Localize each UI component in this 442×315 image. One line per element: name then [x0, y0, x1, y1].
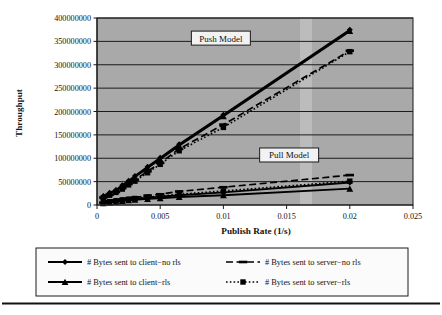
legend-box [36, 248, 408, 296]
marker-square [176, 148, 181, 153]
chart-legend: # Bytes sent to client−no rls# Bytes sen… [36, 248, 408, 296]
x-tick-label: 0.015 [277, 212, 295, 221]
plot-area [97, 18, 413, 206]
y-tick-label: 50000000 [58, 178, 91, 187]
x-tick-label: 0.02 [343, 212, 357, 221]
annotation-text: Push Model [199, 34, 243, 44]
legend-label: # Bytes sent to server−rls [265, 278, 350, 287]
marker-square [158, 162, 163, 167]
marker-square [113, 190, 118, 195]
legend-label: # Bytes sent to client−no rls [87, 258, 181, 267]
legend-label: # Bytes sent to server−no rls [265, 258, 361, 267]
marker-square [347, 49, 352, 54]
marker-square [145, 170, 150, 175]
legend-label: # Bytes sent to client−rls [87, 278, 170, 287]
marker-dash-bar [219, 186, 227, 189]
x-tick-label: 0.01 [216, 212, 230, 221]
throughput-vs-publish-rate-chart: 0500000001000000001500000002000000002500… [0, 0, 442, 315]
chart-figure: 0500000001000000001500000002000000002500… [0, 0, 442, 315]
marker-square [132, 178, 137, 183]
marker-dash-bar [239, 261, 247, 264]
y-tick-label: 150000000 [54, 131, 91, 140]
marker-square [221, 125, 226, 130]
y-tick-label: 300000000 [54, 61, 91, 70]
x-axis-title: Publish Rate (1/s) [221, 226, 290, 236]
x-tick-label: 0.025 [404, 212, 422, 221]
marker-square [240, 279, 245, 284]
y-tick-label: 0 [87, 201, 91, 210]
y-tick-label: 200000000 [54, 108, 91, 117]
marker-square [101, 195, 106, 200]
x-tick-label: 0.005 [151, 212, 169, 221]
pull-model-label: Pull Model [260, 148, 319, 162]
y-tick-label: 400000000 [54, 14, 91, 23]
marker-square [126, 182, 131, 187]
x-tick-label: 0 [95, 212, 99, 221]
marker-square [120, 186, 125, 191]
y-tick-label: 100000000 [54, 154, 91, 163]
marker-square [107, 192, 112, 197]
y-tick-label: 250000000 [54, 84, 91, 93]
marker-dash-bar [346, 174, 354, 177]
y-axis-title: Throughput [14, 88, 24, 137]
y-tick-label: 350000000 [54, 37, 91, 46]
annotation-text: Pull Model [269, 150, 310, 160]
push-model-label: Push Model [191, 31, 250, 45]
